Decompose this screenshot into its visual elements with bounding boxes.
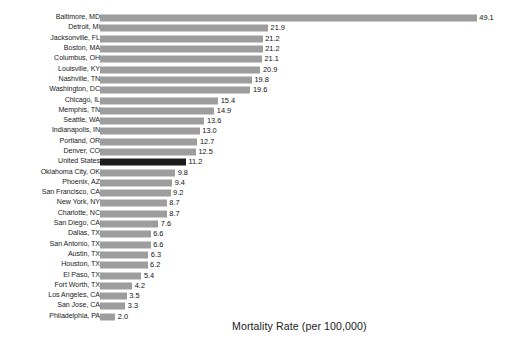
bar	[100, 200, 167, 207]
category-label: Seattle, WA	[63, 118, 100, 125]
bar-value-label: 21.1	[262, 56, 279, 63]
bar	[100, 303, 125, 310]
bar	[100, 149, 196, 156]
bar	[100, 179, 172, 186]
bar-track	[100, 87, 477, 94]
bar-row: San Francisco, CA9.2	[0, 188, 511, 198]
category-label: Detroit, Mi	[68, 25, 100, 32]
bar-row: Louisville, KY20.9	[0, 64, 511, 74]
category-label: Indianapolis, IN	[52, 128, 100, 135]
bar	[100, 35, 263, 42]
bar-track	[100, 107, 477, 114]
bar-track	[100, 282, 477, 289]
bar-track	[100, 303, 477, 310]
bar-row: Columbus, OH21.1	[0, 54, 511, 64]
bar-value-label: 7.6	[158, 220, 171, 227]
bar-track	[100, 56, 477, 63]
bar	[100, 138, 197, 145]
bar-row: Phoenix, AZ9.4	[0, 178, 511, 188]
bar-row: Portland, OR12.7	[0, 137, 511, 147]
bar-value-label: 5.4	[141, 272, 154, 279]
bar-track	[100, 149, 477, 156]
bar-row: Washington, DC19.6	[0, 85, 511, 95]
bar-value-label: 9.8	[175, 169, 188, 176]
bar-track	[100, 66, 477, 73]
bar-row: Jacksonville, FL21.2	[0, 34, 511, 44]
bar-track	[100, 169, 477, 176]
bar-row: Chicago, IL15.4	[0, 95, 511, 105]
bar	[100, 313, 115, 320]
x-axis-title: Mortality Rate (per 100,000)	[232, 320, 367, 332]
bar-value-label: 49.1	[477, 14, 494, 21]
bar-row: Dallas, TX6.6	[0, 229, 511, 239]
bar-value-label: 4.2	[132, 282, 145, 289]
bar-value-label: 21.9	[268, 25, 285, 32]
category-label: Memphis, TN	[59, 107, 101, 114]
bar-track	[100, 210, 477, 217]
bar-value-label: 19.8	[252, 76, 269, 83]
bar-track	[100, 272, 477, 279]
bar-value-label: 13.6	[204, 117, 221, 124]
category-label: Louisville, KY	[58, 66, 100, 73]
category-label: Columbus, OH	[54, 56, 100, 63]
bar-track	[100, 46, 477, 53]
bar-track	[100, 118, 477, 125]
bar-track	[100, 293, 477, 300]
category-label: Austin, TX	[68, 251, 100, 258]
bar-value-label: 9.2	[171, 189, 184, 196]
bar-row: Baltimore, MD49.1	[0, 13, 511, 23]
bar-track	[100, 128, 477, 135]
category-label: Oklahoma City, OK	[41, 169, 100, 176]
bar-value-label: 21.2	[263, 35, 280, 42]
bar-value-label: 2.0	[115, 313, 128, 320]
bar-row: Houston, TX6.2	[0, 260, 511, 270]
category-label: San Jose, CA	[57, 303, 100, 310]
bar	[100, 272, 141, 279]
category-label: Jacksonville, FL	[50, 35, 100, 42]
bar-row: San Jose, CA3.3	[0, 301, 511, 311]
bar	[100, 282, 132, 289]
bar	[100, 118, 204, 125]
category-label: Houston, TX	[61, 262, 100, 269]
bar-row: Fort Worth, TX4.2	[0, 281, 511, 291]
bar-row: New York, NY8.7	[0, 198, 511, 208]
bar	[100, 241, 151, 248]
bar-value-label: 8.7	[167, 210, 180, 217]
bar-row: Detroit, Mi21.9	[0, 23, 511, 33]
category-label: San Francisco, CA	[42, 190, 100, 197]
bar-value-label: 14.9	[214, 107, 231, 114]
bar-track	[100, 138, 477, 145]
bar-value-label: 9.4	[172, 179, 185, 186]
category-label: Portland, OR	[60, 138, 100, 145]
bar-value-label: 12.5	[196, 148, 213, 155]
category-label: El Paso, TX	[63, 272, 100, 279]
bar-value-label: 8.7	[167, 200, 180, 207]
category-label: Nashville, TN	[59, 76, 100, 83]
category-label: United States	[58, 159, 100, 166]
bar	[100, 46, 263, 53]
bar	[100, 56, 262, 63]
category-label: San Antonio, TX	[50, 241, 100, 248]
bar	[100, 25, 268, 32]
category-label: Washington, DC	[49, 87, 100, 94]
bar-value-label: 12.7	[197, 138, 214, 145]
bar-row: Austin, TX6.3	[0, 250, 511, 260]
category-label: Philadelphia, PA	[49, 313, 100, 320]
bar-row: El Paso, TX5.4	[0, 270, 511, 280]
category-label: Phoenix, AZ	[62, 179, 100, 186]
bar-value-label: 3.5	[127, 292, 140, 299]
bar	[100, 251, 148, 258]
bar-row: Memphis, TN14.9	[0, 106, 511, 116]
bar	[100, 107, 214, 114]
bar	[100, 15, 477, 22]
bar	[100, 128, 200, 135]
bar-value-label: 21.2	[263, 45, 280, 52]
category-label: Los Angeles, CA	[48, 293, 100, 300]
bar-track	[100, 190, 477, 197]
bar-value-label: 19.6	[250, 87, 267, 94]
bar-row: Indianapolis, IN13.0	[0, 126, 511, 136]
bar-value-label: 3.3	[125, 303, 138, 310]
category-label: San Diego, CA	[54, 221, 100, 228]
bar-value-label: 6.3	[148, 251, 161, 258]
bar-value-label: 15.4	[218, 97, 235, 104]
